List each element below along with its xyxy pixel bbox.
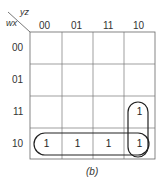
cell-10-10: 1 [124,138,155,149]
cell-10-00: 1 [31,138,62,149]
row-header-00: 00 [12,42,23,53]
caption: (b) [86,166,98,177]
col-header-00: 00 [39,20,50,31]
cell-10-01: 1 [62,138,93,149]
cell-10-11: 1 [93,138,124,149]
col-var-label: yz [20,7,29,17]
row-header-10: 10 [12,138,23,149]
row-var-label: wx [6,18,17,28]
row-header-01: 01 [12,74,23,85]
cell-11-10: 1 [124,106,155,117]
col-header-01: 01 [71,20,82,31]
col-header-11: 11 [103,20,113,31]
row-header-11: 11 [13,106,23,117]
col-header-10: 10 [133,20,144,31]
